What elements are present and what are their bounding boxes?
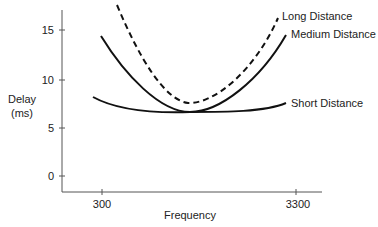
label-short-distance: Short Distance <box>291 97 363 109</box>
y-tick-label: 5 <box>48 122 54 134</box>
y-axis-label-line2: (ms) <box>11 107 33 119</box>
x-axis-label: Frequency <box>164 209 216 221</box>
y-tick-label: 15 <box>42 24 54 36</box>
y-tick-label: 10 <box>42 74 54 86</box>
y-tick-label: 0 <box>48 170 54 182</box>
long-distance-curve <box>117 5 278 103</box>
label-long-distance: Long Distance <box>282 10 352 22</box>
delay-frequency-chart: 0 5 10 15 300 3300 Frequency Delay (ms) … <box>0 0 378 227</box>
label-medium-distance: Medium Distance <box>291 28 376 40</box>
short-distance-curve <box>93 97 286 112</box>
medium-distance-curve <box>101 35 286 112</box>
y-axis-label-line1: Delay <box>8 93 37 105</box>
x-tick-label: 3300 <box>286 198 310 210</box>
x-tick-label: 300 <box>93 198 111 210</box>
